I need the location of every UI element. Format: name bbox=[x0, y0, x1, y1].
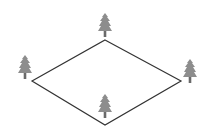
rhombus-diagram bbox=[0, 0, 211, 132]
tree-icon-top bbox=[98, 13, 112, 37]
tree-icon-left bbox=[18, 55, 32, 79]
tree-icon-bottom bbox=[98, 94, 112, 118]
tree-icon-right bbox=[183, 59, 197, 83]
rhombus-outline bbox=[32, 40, 181, 125]
